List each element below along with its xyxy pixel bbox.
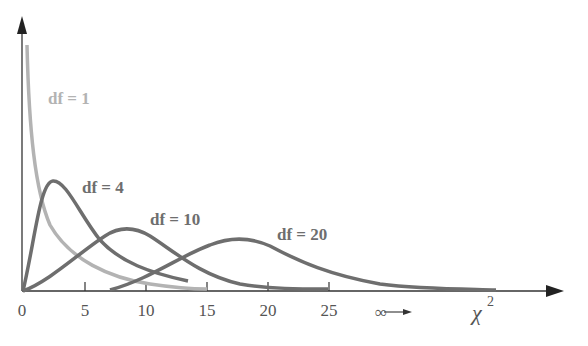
- y-axis-arrow-icon: [17, 16, 27, 34]
- tick-label-10: 10: [138, 301, 155, 320]
- label-df-4: df = 4: [82, 178, 124, 197]
- infinity-arrow-icon: [403, 309, 412, 315]
- tick-label-5: 5: [81, 301, 90, 320]
- tick-label-25: 25: [321, 301, 338, 320]
- tick-label-0: 0: [18, 301, 27, 320]
- chi-square-chart: 0 5 10 15 20 25 ∞ χ 2 df = 1 df = 4 df =…: [0, 0, 588, 346]
- tick-label-20: 20: [260, 301, 277, 320]
- x-axis-title-superscript: 2: [487, 294, 494, 309]
- curve-df-1: [27, 45, 207, 289]
- label-df-1: df = 1: [48, 89, 90, 108]
- label-df-10: df = 10: [150, 210, 200, 229]
- x-axis-arrow-icon: [546, 285, 564, 297]
- x-axis-title: χ: [470, 300, 483, 325]
- tick-label-15: 15: [199, 301, 216, 320]
- label-df-20: df = 20: [277, 225, 327, 244]
